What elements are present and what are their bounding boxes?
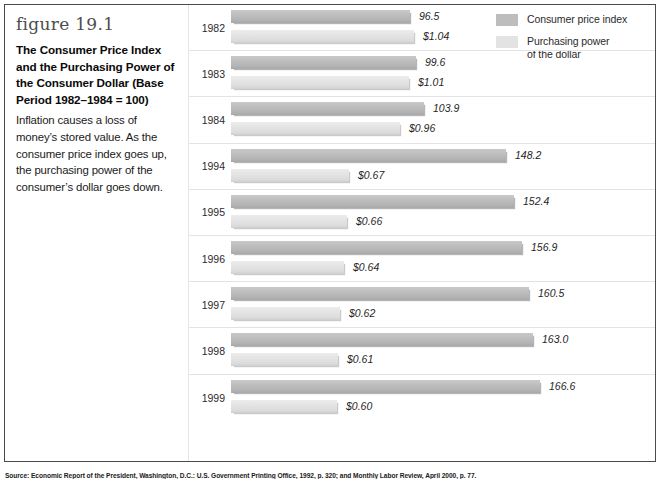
bar-track-purchasing-power: $0.64 [231,261,655,275]
year-axis-label: 1984 [189,114,225,126]
bar-cpi[interactable] [231,102,424,115]
bar-cpi[interactable] [231,241,522,254]
bar-value-label-cpi: 156.9 [531,241,557,254]
bar-purchasing-power[interactable] [231,30,414,43]
figure-description: Inflation causes a loss of money’s store… [16,112,176,195]
bar-value-label-cpi: 99.6 [425,56,445,69]
year-axis-label: 1996 [189,253,225,265]
bar-purchasing-power[interactable] [231,76,409,89]
bar-value-label-cpi: 96.5 [419,10,439,23]
bar-value-label-cpi: 166.6 [549,380,575,393]
bar-track-cpi: 152.4 [231,195,655,209]
bar-value-label-purchasing-power: $1.04 [423,30,449,43]
bar-track-purchasing-power: $0.66 [231,215,655,229]
bar-value-label-purchasing-power: $0.66 [356,215,382,228]
bar-cpi[interactable] [231,380,540,393]
bar-purchasing-power[interactable] [231,400,337,413]
bar-value-label-purchasing-power: $0.60 [346,400,372,413]
bar-track-cpi: 156.9 [231,241,655,255]
bar-track-cpi: 103.9 [231,102,655,116]
bar-cpi[interactable] [231,333,533,346]
figure-container: figure 19.1 The Consumer Price Index and… [4,4,656,462]
bar-purchasing-power[interactable] [231,215,347,228]
bar-value-label-cpi: 103.9 [433,102,459,115]
year-group: 1995152.4$0.66 [189,190,655,236]
year-axis-label: 1998 [189,345,225,357]
year-axis-label: 1982 [189,22,225,34]
year-group: 1994148.2$0.67 [189,144,655,190]
bar-purchasing-power[interactable] [231,307,340,320]
year-group: 1984103.9$0.96 [189,97,655,143]
bar-cpi[interactable] [231,287,529,300]
bar-value-label-purchasing-power: $0.62 [349,307,375,320]
bar-track-purchasing-power: $0.60 [231,400,655,414]
bar-purchasing-power[interactable] [231,122,400,135]
chart-plot-area: Consumer price index Purchasing power of… [189,5,655,461]
year-axis-label: 1997 [189,299,225,311]
year-group: 198296.5$1.04 [189,5,655,51]
figure-caption-panel: figure 19.1 The Consumer Price Index and… [5,5,189,461]
year-group: 1999166.6$0.60 [189,375,655,421]
year-axis-label: 1999 [189,392,225,404]
bar-value-label-cpi: 148.2 [515,149,541,162]
bar-value-label-cpi: 160.5 [538,287,564,300]
bar-rows-container: 198296.5$1.04198399.6$1.011984103.9$0.96… [189,5,655,421]
bar-track-purchasing-power: $1.01 [231,76,655,90]
bar-track-cpi: 99.6 [231,56,655,70]
bar-cpi[interactable] [231,10,410,23]
bar-track-cpi: 163.0 [231,333,655,347]
bar-value-label-purchasing-power: $0.96 [409,122,435,135]
bar-track-purchasing-power: $0.67 [231,169,655,183]
bar-cpi[interactable] [231,149,506,162]
bar-cpi[interactable] [231,195,514,208]
bar-value-label-cpi: 152.4 [523,195,549,208]
year-axis-label: 1983 [189,68,225,80]
bar-track-purchasing-power: $0.96 [231,122,655,136]
bar-value-label-purchasing-power: $0.61 [347,353,373,366]
year-axis-label: 1995 [189,206,225,218]
bar-track-purchasing-power: $0.62 [231,307,655,321]
bar-cpi[interactable] [231,56,416,69]
bar-value-label-purchasing-power: $1.01 [418,76,444,89]
year-axis-label: 1994 [189,160,225,172]
bar-value-label-purchasing-power: $0.64 [353,261,379,274]
source-note: Source: Economic Report of the President… [5,472,657,479]
figure-number: figure 19.1 [16,16,176,33]
year-group: 1997160.5$0.62 [189,282,655,328]
bar-purchasing-power[interactable] [231,261,344,274]
year-group: 198399.6$1.01 [189,51,655,97]
bar-track-purchasing-power: $0.61 [231,353,655,367]
bar-value-label-purchasing-power: $0.67 [358,169,384,182]
bar-value-label-cpi: 163.0 [542,333,568,346]
bar-track-cpi: 96.5 [231,10,655,24]
bar-track-purchasing-power: $1.04 [231,30,655,44]
year-group: 1996156.9$0.64 [189,236,655,282]
bar-purchasing-power[interactable] [231,169,349,182]
figure-title: The Consumer Price Index and the Purchas… [16,42,176,108]
bar-track-cpi: 160.5 [231,287,655,301]
year-group: 1998163.0$0.61 [189,328,655,374]
bar-track-cpi: 148.2 [231,149,655,163]
bar-track-cpi: 166.6 [231,380,655,394]
bar-purchasing-power[interactable] [231,353,338,366]
